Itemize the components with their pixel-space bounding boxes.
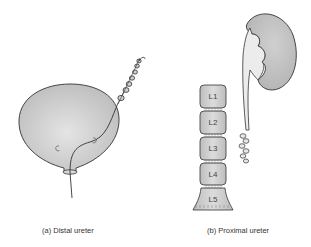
vertebra-label-l1: L1 <box>209 92 218 101</box>
vertebra-label-l5: L5 <box>209 195 218 204</box>
vertebra-label-l2: L2 <box>209 118 218 127</box>
vertebra-label-l3: L3 <box>209 144 218 153</box>
bladder-icon <box>19 84 119 172</box>
vertebra-label-l4: L4 <box>209 170 218 179</box>
catheter-line-icon <box>70 172 72 198</box>
caption-proximal-ureter: (b) Proximal ureter <box>207 226 269 235</box>
coiled-ureter-icon <box>116 57 145 108</box>
panel-a-distal-ureter <box>19 57 145 198</box>
caption-distal-ureter: (a) Distal ureter <box>42 226 94 235</box>
coiled-stent-tip-icon <box>239 134 249 163</box>
figure-canvas: L1 L2 L3 L4 L5 <box>0 0 311 247</box>
panel-b-proximal-ureter: L1 L2 L3 L4 L5 <box>193 14 296 210</box>
